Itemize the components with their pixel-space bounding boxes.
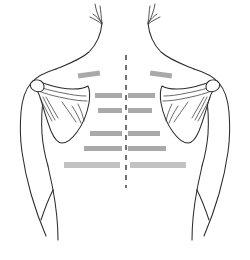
- label-bar[interactable]: [128, 131, 160, 136]
- anatomy-canvas: [0, 0, 250, 260]
- label-bar[interactable]: [84, 146, 122, 151]
- figure-background: [0, 0, 250, 260]
- label-bar[interactable]: [98, 108, 122, 113]
- anatomy-figure: [0, 0, 250, 260]
- label-bar[interactable]: [128, 93, 155, 98]
- acromion-right: [206, 80, 220, 92]
- acromion-left: [30, 80, 44, 92]
- label-bar[interactable]: [130, 162, 186, 168]
- label-bar[interactable]: [90, 131, 122, 136]
- label-bar[interactable]: [95, 93, 122, 98]
- label-bar[interactable]: [128, 108, 152, 113]
- label-bar[interactable]: [128, 146, 166, 151]
- label-bar[interactable]: [64, 162, 120, 168]
